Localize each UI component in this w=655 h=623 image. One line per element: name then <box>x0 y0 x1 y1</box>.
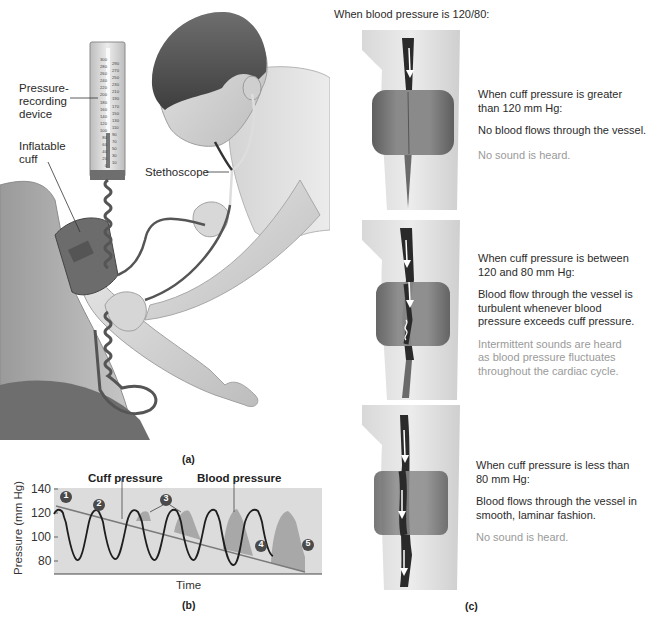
gauge-tick: 190 <box>112 95 126 102</box>
gauge-tick: 20 <box>93 155 107 162</box>
gauge-left-scale: 300 280 260 240 220 200 180 160 140 120 … <box>93 56 107 170</box>
y-tick-120: 120 <box>31 506 51 520</box>
state-3-condition: When cuff pressure is less than 80 mm Hg… <box>476 459 654 486</box>
gauge-tick: 300 <box>93 56 107 63</box>
arm-section-no-flow <box>362 30 462 210</box>
vessel-compressed-illustration <box>362 30 462 210</box>
y-tick-80: 80 <box>38 554 51 568</box>
text-line: 120 and 80 mm Hg: <box>478 266 653 280</box>
text-line: When cuff pressure is less than <box>476 459 654 473</box>
blood-pressure-measurement-illustration <box>0 0 330 440</box>
gauge-tick: 90 <box>112 131 126 138</box>
state-1-sound: No sound is heard. <box>478 149 653 163</box>
marker-2: 2 <box>93 498 105 508</box>
text-line: Blood flows through the vessel in <box>476 495 654 509</box>
callout-line: Inflatable <box>19 140 66 153</box>
gauge-tick: 130 <box>112 117 126 124</box>
y-axis-title: Pressure (mm Hg) <box>12 478 24 578</box>
inflatable-cuff-callout: Inflatable cuff <box>19 140 66 166</box>
text-line: When cuff pressure is between <box>478 252 653 266</box>
text-line: as blood pressure fluctuates <box>478 351 653 365</box>
text-line: Intermittent sounds are heard <box>478 338 653 352</box>
gauge-tick: 260 <box>93 70 107 77</box>
gauge-tick: 100 <box>93 127 107 134</box>
state-2-flow: Blood flow through the vessel is turbule… <box>478 288 653 329</box>
marker-4: 4 <box>255 539 267 549</box>
gauge-tick: 200 <box>93 91 107 98</box>
state-2-description: When cuff pressure is between 120 and 80… <box>478 252 653 378</box>
y-tick-140: 140 <box>31 482 51 496</box>
gauge-tick: 240 <box>93 77 107 84</box>
gauge-tick: 280 <box>93 63 107 70</box>
state-1-condition: When cuff pressure is greater than 120 m… <box>478 88 653 115</box>
gauge-tick: 0 <box>93 162 107 169</box>
text-line: pressure exceeds cuff pressure. <box>478 315 653 329</box>
vessel-laminar-illustration <box>362 405 462 590</box>
gauge-tick: 120 <box>93 120 107 127</box>
gauge-tick: 170 <box>112 103 126 110</box>
arm-section-laminar <box>362 405 462 590</box>
gauge-tick: 30 <box>112 152 126 159</box>
state-3-flow: Blood flows through the vessel in smooth… <box>476 495 654 522</box>
gauge-tick: 150 <box>112 110 126 117</box>
pressure-device-callout: Pressure- recording device <box>19 82 69 121</box>
gauge-tick: 270 <box>112 67 126 74</box>
gauge-tick: 40 <box>93 148 107 155</box>
state-3-sound: No sound is heard. <box>476 531 654 545</box>
text-line: No blood flows through the vessel. <box>478 124 653 138</box>
gauge-tick: 250 <box>112 74 126 81</box>
gauge-tick: 10 <box>112 159 126 166</box>
gauge-tick: 220 <box>93 84 107 91</box>
panel-a-label: (a) <box>182 453 195 465</box>
gauge-tick: 210 <box>112 88 126 95</box>
text-line: throughout the cardiac cycle. <box>478 365 653 379</box>
callout-line: device <box>19 108 69 121</box>
panel-c-heading: When blood pressure is 120/80: <box>334 8 489 20</box>
text-line: turbulent whenever blood <box>478 302 653 316</box>
text-line: than 120 mm Hg: <box>478 102 653 116</box>
text-line: When cuff pressure is greater <box>478 88 653 102</box>
gauge-tick: 180 <box>93 99 107 106</box>
gauge-tick: 60 <box>93 141 107 148</box>
callout-line: recording <box>19 95 69 108</box>
panel-b-label: (b) <box>182 599 195 611</box>
state-2-condition: When cuff pressure is between 120 and 80… <box>478 252 653 279</box>
gauge-tick: 70 <box>112 138 126 145</box>
panel-c-label: (c) <box>465 600 478 612</box>
text-line: Blood flow through the vessel is <box>478 288 653 302</box>
marker-5: 5 <box>302 538 314 548</box>
gauge-tick: 80 <box>93 134 107 141</box>
gauge-tick: 50 <box>112 145 126 152</box>
marker-3: 3 <box>160 493 172 503</box>
state-1-flow: No blood flows through the vessel. <box>478 124 653 138</box>
stethoscope-callout: Stethoscope <box>145 166 209 179</box>
x-axis-title: Time <box>176 579 201 591</box>
state-2-sound: Intermittent sounds are heard as blood p… <box>478 338 653 379</box>
text-line: 80 mm Hg: <box>476 473 654 487</box>
gauge-tick: 160 <box>93 106 107 113</box>
callout-line: cuff <box>19 153 66 166</box>
arm-section-turbulent <box>362 220 462 400</box>
gauge-tick: 110 <box>112 124 126 131</box>
gauge-tick: 230 <box>112 81 126 88</box>
gauge-tick: 290 <box>112 60 126 67</box>
y-tick-100: 100 <box>31 530 51 544</box>
text-line: No sound is heard. <box>478 149 653 163</box>
text-line: smooth, laminar fashion. <box>476 509 654 523</box>
state-3-description: When cuff pressure is less than 80 mm Hg… <box>476 459 654 545</box>
state-1-description: When cuff pressure is greater than 120 m… <box>478 88 653 162</box>
gauge-tick: 140 <box>93 113 107 120</box>
marker-1: 1 <box>60 490 72 500</box>
text-line: No sound is heard. <box>476 531 654 545</box>
panel-a-illustration: 300 280 260 240 220 200 180 160 140 120 … <box>0 0 330 440</box>
vessel-turbulent-illustration <box>362 220 462 400</box>
gauge-right-scale: 290 270 250 230 210 190 170 150 130 110 … <box>112 60 126 166</box>
callout-line: Pressure- <box>19 82 69 95</box>
